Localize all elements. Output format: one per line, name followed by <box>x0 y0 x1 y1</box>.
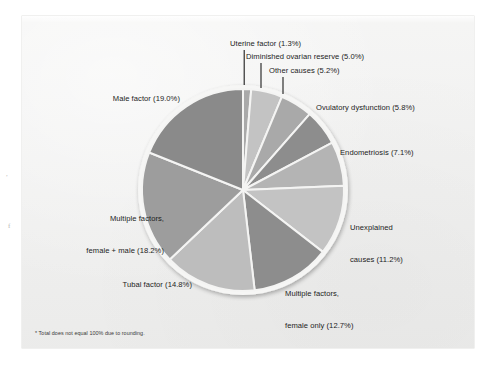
label-unexplained-causes-line2: causes (11.2%) <box>350 255 403 266</box>
label-multiple-factors-female-only: Multiple factors, female only (12.7%) <box>285 268 353 352</box>
label-multiple-factors-female-only-line2: female only (12.7%) <box>285 321 353 332</box>
label-male-factor: Male factor (19.0%) <box>40 94 180 105</box>
chart-paper: Uterine factor (1.3%) Diminished ovarian… <box>22 16 474 348</box>
page-smudge-mark-2: f <box>8 222 10 230</box>
pie-chart: Uterine factor (1.3%) Diminished ovarian… <box>22 16 474 348</box>
label-other-causes: Other causes (5.2%) <box>269 66 340 77</box>
label-multiple-factors-female-male-line1: Multiple factors, <box>30 214 164 225</box>
label-ovulatory-dysfunction: Ovulatory dysfunction (5.8%) <box>316 103 415 114</box>
pie-slice-group <box>142 89 344 291</box>
pie-chart-svg <box>22 16 474 348</box>
footnote: * Total does not equal 100% due to round… <box>35 330 145 336</box>
label-unexplained-causes: Unexplained causes (11.2%) <box>350 202 403 286</box>
label-uterine-factor: Uterine factor (1.3%) <box>230 39 301 50</box>
label-diminished-ovarian-reserve: Diminished ovarian reserve (5.0%) <box>246 52 364 63</box>
label-endometriosis: Endometriosis (7.1%) <box>340 148 414 159</box>
label-unexplained-causes-line1: Unexplained <box>350 223 403 234</box>
label-multiple-factors-female-only-line1: Multiple factors, <box>285 289 353 300</box>
figure-page: Uterine factor (1.3%) Diminished ovarian… <box>0 0 490 370</box>
label-multiple-factors-female-male: Multiple factors, female + male (18.2%) <box>30 193 164 277</box>
label-multiple-factors-female-male-line2: female + male (18.2%) <box>30 246 164 257</box>
page-smudge-mark: , <box>6 170 8 178</box>
label-tubal-factor: Tubal factor (14.8%) <box>46 280 192 291</box>
